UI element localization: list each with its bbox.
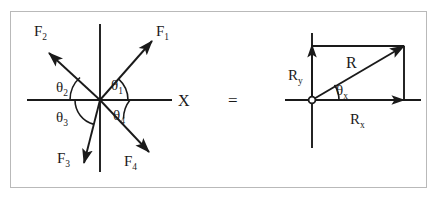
- left-diagram-group: X F1 F2 F3 F4 θ1 θ2 θ3 θ4: [27, 23, 190, 172]
- angle-label-theta2: θ2: [56, 79, 68, 98]
- angle-label-theta1: θ1: [111, 77, 123, 96]
- force-label-f1: F1: [156, 23, 169, 42]
- equals-sign: =: [228, 91, 238, 110]
- origin-point-marker: [309, 97, 316, 104]
- component-label-rx: Rx: [350, 111, 365, 130]
- x-axis-label: X: [178, 92, 190, 109]
- figure-root: X F1 F2 F3 F4 θ1 θ2 θ3 θ4 =: [0, 0, 436, 203]
- angle-label-theta-x: θx: [336, 82, 348, 101]
- force-label-f3: F3: [57, 150, 70, 169]
- force-label-f4: F4: [124, 153, 137, 172]
- force-vector-f3-arrow: [84, 100, 100, 163]
- diagram-canvas: X F1 F2 F3 F4 θ1 θ2 θ3 θ4 =: [0, 0, 436, 203]
- angle-label-theta4: θ4: [113, 107, 125, 126]
- angle-label-theta3: θ3: [56, 109, 68, 128]
- force-vector-f4-arrow: [100, 100, 149, 152]
- right-diagram-group: R Ry Rx θx: [285, 33, 421, 148]
- component-label-ry: Ry: [288, 67, 303, 86]
- force-label-f2: F2: [34, 23, 47, 42]
- angle-arc-theta3: [75, 100, 94, 124]
- resultant-label-r: R: [346, 54, 357, 71]
- resultant-vector-r-arrow: [312, 46, 404, 100]
